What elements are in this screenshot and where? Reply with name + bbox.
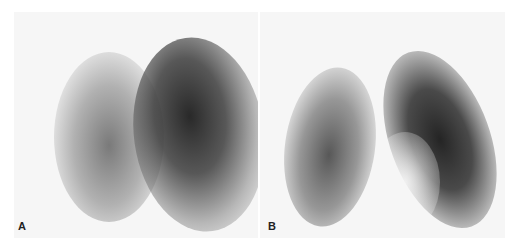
- panel-a-label: A: [18, 220, 26, 232]
- cardiac-notch: [370, 132, 440, 232]
- panel-b-scan-image: B: [260, 12, 505, 238]
- left-lung-activity: [121, 29, 258, 238]
- panel-a-scan-image: A: [14, 12, 258, 238]
- panel-b-label: B: [268, 220, 276, 232]
- right-lung-activity: [274, 62, 385, 233]
